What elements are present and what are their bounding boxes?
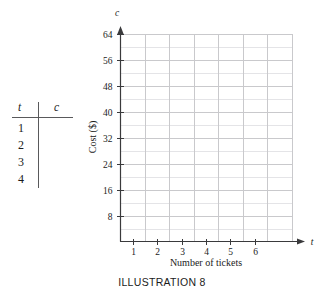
y-axis-title: Cost ($) <box>87 121 99 154</box>
y-axis-tick-label: 56 <box>103 56 113 66</box>
x-axis-tick-label: 2 <box>155 247 160 257</box>
y-axis-tick-label: 32 <box>103 134 113 144</box>
y-axis-tick-label: 24 <box>103 160 113 170</box>
x-axis-tick-label: 4 <box>204 247 209 257</box>
graph-svg: 816243240485664 123456 c t Cost ($) Numb… <box>0 0 324 298</box>
axis-ticks <box>117 35 256 245</box>
illustration-caption: ILLUSTRATION 8 <box>0 276 324 288</box>
x-axis-arrowhead <box>297 238 305 244</box>
x-axis-tick-label: 6 <box>253 247 258 257</box>
x-axis-variable-label: t <box>311 237 314 247</box>
x-axis-title: Number of tickets <box>170 257 242 268</box>
y-axis-tick-label: 48 <box>103 82 113 92</box>
x-axis-tick-labels: 123456 <box>131 247 258 257</box>
cost-vs-tickets-graph: 816243240485664 123456 c t Cost ($) Numb… <box>0 0 324 298</box>
x-axis-tick-label: 1 <box>131 247 136 257</box>
y-axis-tick-label: 8 <box>108 212 113 222</box>
y-axis-tick-label: 64 <box>103 30 113 40</box>
x-axis-tick-label: 5 <box>228 247 233 257</box>
y-axis-tick-labels: 816243240485664 <box>103 30 113 222</box>
y-axis-tick-label: 40 <box>103 108 113 118</box>
y-axis-tick-label: 16 <box>103 186 113 196</box>
vertical-gridlines <box>146 34 293 242</box>
y-axis-arrowhead <box>117 26 123 34</box>
x-axis-tick-label: 3 <box>180 247 185 257</box>
y-axis-variable-label: c <box>115 8 120 18</box>
